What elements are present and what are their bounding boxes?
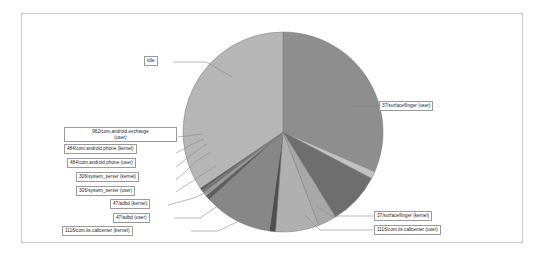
label-system-server-kernel: 306/system_server (kernel) xyxy=(76,172,139,182)
label-callcenter-kernel: 1116/com.iis.callcenter (kernel) xyxy=(62,226,133,236)
label-phone-kernel: 484/com.android.phone (kernel) xyxy=(64,144,137,154)
label-exchange-user: 962/com.android.exchange (user) xyxy=(64,127,177,142)
label-exchange-user-line2: (user) xyxy=(114,135,126,140)
label-system-server-user: 306/system_server (user) xyxy=(76,186,135,196)
label-surfaceflinger-kernel: 37/surfaceflinger (kernel) xyxy=(374,211,432,221)
label-surfaceflinger-user: 37/surfaceflinger (user) xyxy=(379,101,433,111)
leader-callcenter-kernel xyxy=(191,219,243,231)
label-exchange-user-line1: 962/com.android.exchange xyxy=(92,129,149,134)
label-adbd-user: 47/adbd (user) xyxy=(113,213,150,223)
label-idle: Idle xyxy=(144,56,158,66)
label-adbd-kernel: 47/adbd (kernel) xyxy=(110,199,150,209)
pie-slices xyxy=(183,32,383,232)
label-phone-user: 484/com.android.phone (user) xyxy=(67,158,136,168)
leader-adbd-user xyxy=(174,205,219,218)
label-callcenter-user: 1116/com.iis.callcenter (user) xyxy=(374,225,441,235)
